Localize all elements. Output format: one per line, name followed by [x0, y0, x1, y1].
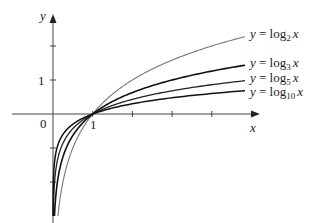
curve-log10: [53, 91, 245, 216]
y-axis-label: y: [38, 8, 46, 23]
x-tick-label-1: 1: [90, 117, 97, 132]
y-tick-label-1: 1: [38, 73, 45, 88]
legend-label-log10: y = log10x: [248, 84, 303, 101]
log-functions-plot: y x 0 1 1 y = log2xy = log3xy = log5xy =…: [0, 0, 327, 223]
curve-log3: [54, 65, 245, 216]
x-axis-arrow-icon: [251, 111, 260, 118]
origin-label: 0: [40, 116, 47, 131]
legend: y = log2xy = log3xy = log5xy = log10x: [248, 26, 303, 101]
curves: [53, 37, 245, 216]
legend-label-log2: y = log2x: [248, 26, 299, 43]
x-axis-label: x: [249, 120, 256, 135]
axes: [12, 14, 260, 223]
curve-log2: [58, 37, 245, 216]
y-axis-arrow-icon: [50, 14, 57, 23]
